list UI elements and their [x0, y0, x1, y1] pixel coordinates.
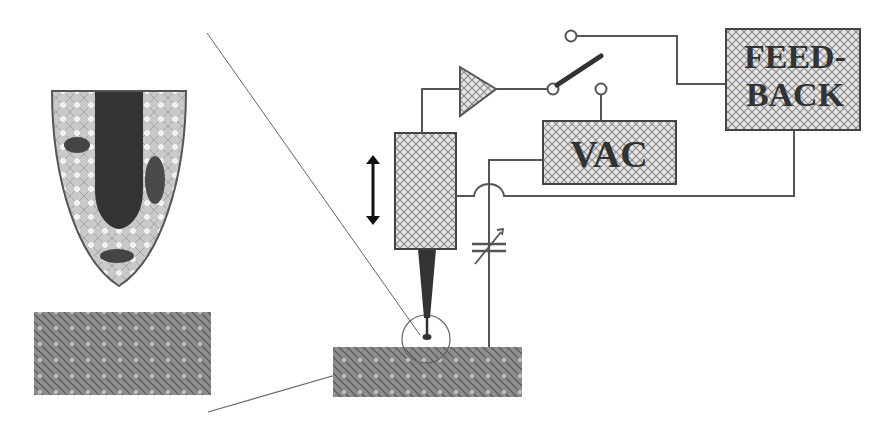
wire-vac-capacitor — [489, 160, 543, 347]
wire-piezo-amplifier — [422, 89, 460, 133]
feedback-label-line2: BACK — [746, 76, 845, 113]
sample-magnified — [34, 312, 211, 395]
vac-box: VAC — [543, 121, 676, 184]
probe-tip — [418, 249, 436, 318]
zoom-guide-upper — [207, 33, 420, 335]
amplifier-icon — [460, 67, 496, 116]
switch-icon — [548, 31, 607, 95]
inclusion-bottom — [100, 249, 134, 263]
vertical-motion-arrow-icon — [366, 155, 380, 225]
tip-magnified-view — [52, 91, 186, 286]
inclusion-left — [64, 137, 90, 153]
vac-label: VAC — [570, 133, 647, 175]
spm-schematic: VAC FEED- BACK — [0, 0, 894, 435]
tip-core-inclusion — [95, 92, 143, 229]
inclusion-right — [145, 156, 165, 204]
piezo-actuator — [395, 133, 456, 249]
sample-substrate — [333, 347, 522, 397]
feedback-box: FEED- BACK — [726, 29, 860, 130]
feedback-label-line1: FEED- — [744, 38, 846, 75]
